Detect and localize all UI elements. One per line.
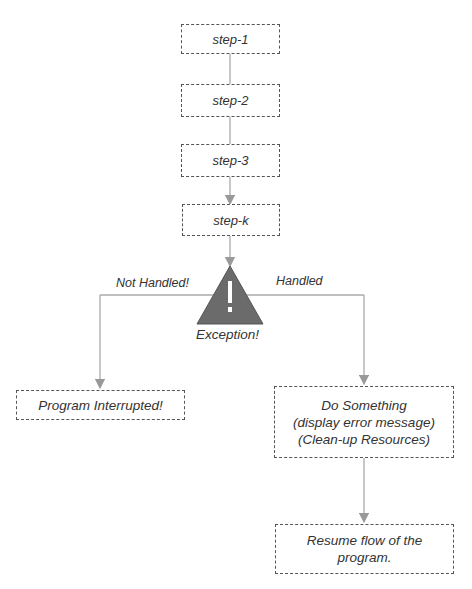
handled-label: Handled — [276, 274, 323, 288]
do-something-title: Do Something — [293, 397, 435, 414]
program-interrupted-label: Program Interrupted! — [38, 397, 163, 414]
exception-label: Exception! — [196, 327, 259, 342]
program-interrupted-box: Program Interrupted! — [16, 390, 185, 420]
step-1-box: step-1 — [181, 24, 280, 54]
do-something-box: Do Something (display error message) (Cl… — [274, 386, 454, 458]
step-k-label: step-k — [213, 212, 248, 229]
step-1-label: step-1 — [212, 31, 248, 48]
resume-line2: program. — [307, 549, 423, 566]
step-2-label: step-2 — [212, 92, 248, 109]
resume-flow-box: Resume flow of the program. — [275, 524, 454, 574]
step-2-box: step-2 — [181, 84, 280, 117]
step-k-box: step-k — [182, 204, 280, 236]
not-handled-label: Not Handled! — [116, 276, 189, 290]
do-something-line3: (Clean-up Resources) — [293, 431, 435, 448]
do-something-line2: (display error message) — [293, 414, 435, 431]
step-3-box: step-3 — [181, 144, 280, 177]
resume-line1: Resume flow of the — [307, 532, 423, 549]
step-3-label: step-3 — [212, 152, 248, 169]
